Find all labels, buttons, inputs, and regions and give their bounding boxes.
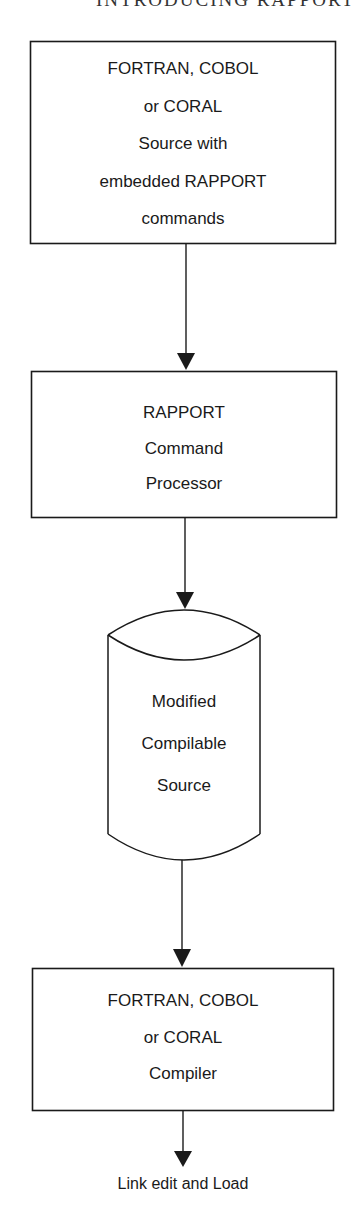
source-line-5: commands <box>30 200 336 238</box>
modified-source-line-3: Source <box>108 765 260 807</box>
compiler-line-2: or CORAL <box>32 1020 334 1057</box>
compiler-line-1: FORTRAN, COBOL <box>32 983 334 1020</box>
source-line-2: or CORAL <box>30 88 336 126</box>
compiler-line-3: Compiler <box>32 1056 334 1093</box>
arrowhead-down-icon <box>173 949 191 967</box>
link-edit-label: Link edit and Load <box>83 1172 283 1196</box>
processor-node-label: RAPPORT Command Processor <box>31 395 337 502</box>
modified-source-node-label: Modified Compilable Source <box>108 681 260 807</box>
source-line-3: Source with <box>30 125 336 163</box>
processor-line-2: Command <box>31 431 337 467</box>
arrowhead-down-icon <box>177 353 195 370</box>
modified-source-line-1: Modified <box>108 681 260 723</box>
processor-line-1: RAPPORT <box>31 395 337 431</box>
arrowhead-down-icon <box>174 1151 192 1167</box>
processor-line-3: Processor <box>31 466 337 502</box>
compiler-node-label: FORTRAN, COBOL or CORAL Compiler <box>32 983 334 1093</box>
modified-source-line-2: Compilable <box>108 723 260 765</box>
source-line-1: FORTRAN, COBOL <box>30 50 336 88</box>
source-node-label: FORTRAN, COBOL or CORAL Source with embe… <box>30 50 336 238</box>
arrowhead-down-icon <box>176 592 194 609</box>
source-line-4: embedded RAPPORT <box>30 163 336 201</box>
